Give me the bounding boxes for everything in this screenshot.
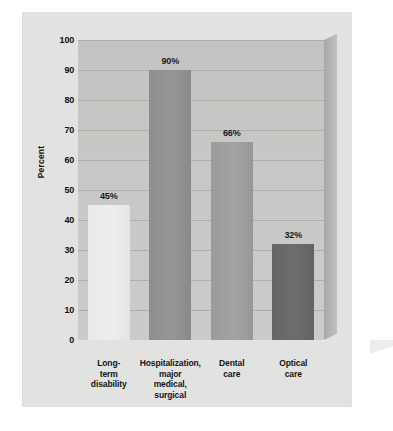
y-axis-tick-label: 30: [42, 245, 74, 255]
x-axis-category-label-line: surgical: [127, 390, 213, 401]
y-axis-tick-label: 60: [42, 155, 74, 165]
x-axis-category-label-line: Optical: [250, 358, 336, 369]
bar-chart: 45%90%66%32% 1009080706050403020100 Perc…: [22, 12, 352, 407]
y-axis-tick-label: 100: [42, 35, 74, 45]
bar-value-label: 90%: [135, 56, 205, 66]
y-axis-tick-label: 10: [42, 305, 74, 315]
x-axis-category-label-line: care: [250, 369, 336, 380]
x-axis-category-label-line: medical,: [127, 379, 213, 390]
y-axis-tick-label: 40: [42, 215, 74, 225]
y-axis-title: Percent: [36, 146, 46, 179]
bar[interactable]: [272, 244, 314, 340]
bar-value-label: 66%: [197, 128, 267, 138]
bar[interactable]: [149, 70, 191, 340]
bar-value-label: 45%: [74, 191, 144, 201]
y-axis-tick-label: 70: [42, 125, 74, 135]
y-axis-ticks: 1009080706050403020100: [42, 40, 74, 340]
plot-depth-right-face: [324, 34, 337, 340]
bar-value-label: 32%: [258, 230, 328, 240]
chart-floor: [68, 340, 347, 354]
chart-floor-face: [68, 340, 347, 354]
y-axis-tick-label: 0: [42, 335, 74, 345]
y-axis-tick-label: 50: [42, 185, 74, 195]
bar[interactable]: [211, 142, 253, 340]
x-axis-category-labels: Long-termdisabilityHospitalization,major…: [78, 358, 324, 418]
x-axis-category-label: Opticalcare: [250, 358, 336, 379]
y-axis-tick-label: 80: [42, 95, 74, 105]
y-axis-tick-label: 90: [42, 65, 74, 75]
figure-card: 45%90%66%32% 1009080706050403020100 Perc…: [22, 12, 352, 407]
bars-layer: 45%90%66%32%: [78, 40, 324, 340]
y-axis-tick-label: 20: [42, 275, 74, 285]
bar[interactable]: [88, 205, 130, 340]
